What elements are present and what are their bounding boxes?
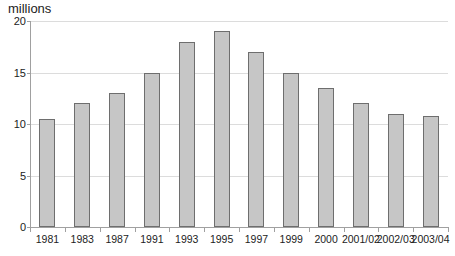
x-axis-tick-label: 2001/02 xyxy=(342,233,380,245)
bar xyxy=(353,103,369,227)
x-axis-tick-label: 1981 xyxy=(36,233,59,245)
bar xyxy=(39,119,55,227)
x-axis-tick-label: 1993 xyxy=(175,233,198,245)
x-axis-tick-label: 2002/03 xyxy=(377,233,415,245)
x-axis-tick-label: 1997 xyxy=(245,233,268,245)
y-axis-tick-mark xyxy=(27,176,30,177)
bar xyxy=(109,93,125,227)
x-axis-tick-label: 1987 xyxy=(105,233,128,245)
bar xyxy=(214,31,230,227)
y-axis-tick-label: 20 xyxy=(4,15,26,27)
y-axis-tick-label: 15 xyxy=(4,67,26,79)
x-axis-tick-mark xyxy=(239,228,240,232)
x-axis-tick-mark xyxy=(309,228,310,232)
gridline xyxy=(30,21,448,22)
bar xyxy=(388,114,404,227)
x-axis-tick-mark xyxy=(448,228,449,232)
y-axis-line xyxy=(30,21,31,227)
y-axis-tick-mark xyxy=(27,73,30,74)
x-axis-tick-mark xyxy=(135,228,136,232)
x-axis-tick-mark xyxy=(378,228,379,232)
x-axis-tick-mark xyxy=(344,228,345,232)
y-axis-tick-mark xyxy=(27,21,30,22)
x-axis-tick-mark xyxy=(30,228,31,232)
bar xyxy=(283,73,299,228)
bar xyxy=(179,42,195,227)
y-axis-tick-label: 0 xyxy=(4,221,26,233)
x-axis-tick-label: 1999 xyxy=(280,233,303,245)
x-axis-tick-label: 1983 xyxy=(71,233,94,245)
gridline xyxy=(30,176,448,177)
x-axis-tick-label: 1995 xyxy=(210,233,233,245)
y-axis-tick-label: 5 xyxy=(4,170,26,182)
x-axis-tick-mark xyxy=(169,228,170,232)
x-axis-tick-mark xyxy=(65,228,66,232)
x-axis-tick-label: 2003/04 xyxy=(412,233,450,245)
y-axis-tick-mark xyxy=(27,124,30,125)
bar xyxy=(318,88,334,227)
bar xyxy=(144,73,160,228)
y-axis-unit-label: millions xyxy=(8,1,51,16)
gridline xyxy=(30,73,448,74)
gridline xyxy=(30,124,448,125)
x-axis-tick-label: 1991 xyxy=(140,233,163,245)
bar xyxy=(248,52,264,227)
bar-chart: millions 0510152019811983198719911993199… xyxy=(0,0,455,256)
y-axis-tick-label: 10 xyxy=(4,118,26,130)
bar xyxy=(74,103,90,227)
x-axis-tick-mark xyxy=(100,228,101,232)
x-axis-tick-mark xyxy=(274,228,275,232)
x-axis-tick-mark xyxy=(413,228,414,232)
x-axis-tick-label: 2000 xyxy=(314,233,337,245)
x-axis-tick-mark xyxy=(204,228,205,232)
bar xyxy=(423,116,439,227)
